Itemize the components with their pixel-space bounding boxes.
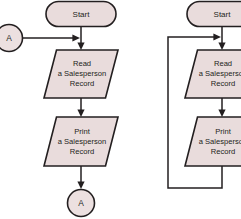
left-arrowhead-into-main-flow — [72, 34, 80, 41]
left-print-label-line3: Record — [70, 147, 94, 156]
flowchart-panel-left: A Start Read a Salesperson Record Print … — [0, 2, 118, 217]
left-print-label-line1: Print — [74, 127, 91, 136]
flowchart-canvas: A Start Read a Salesperson Record Print … — [0, 0, 241, 219]
right-read-label-line2: a Salesperson — [199, 69, 241, 78]
left-connector-in-label: A — [6, 33, 12, 43]
right-print-label-line1: Print — [215, 127, 232, 136]
right-arrowhead-into-print — [218, 109, 225, 117]
left-arrowhead-into-connector — [77, 181, 84, 189]
left-arrowhead-into-print — [77, 109, 84, 117]
left-start-label: Start — [73, 10, 91, 19]
left-arrowhead-into-read — [77, 42, 84, 50]
right-print-label-line3: Record — [211, 147, 235, 156]
left-read-label-line1: Read — [73, 59, 91, 68]
right-read-label-line1: Read — [214, 59, 232, 68]
right-arrowhead-into-read — [218, 42, 225, 50]
right-print-label-line2: a Salesperson — [199, 137, 241, 146]
left-connector-out-label: A — [78, 198, 84, 208]
left-read-label-line2: a Salesperson — [58, 69, 107, 78]
flowchart-panel-right: Start Read a Salesperson Record Print a … — [168, 2, 241, 189]
left-print-label-line2: a Salesperson — [58, 137, 107, 146]
right-read-label-line3: Record — [211, 79, 235, 88]
left-read-label-line3: Record — [70, 79, 94, 88]
right-start-label: Start — [214, 10, 232, 19]
right-arrowhead-loop-return — [213, 33, 221, 40]
